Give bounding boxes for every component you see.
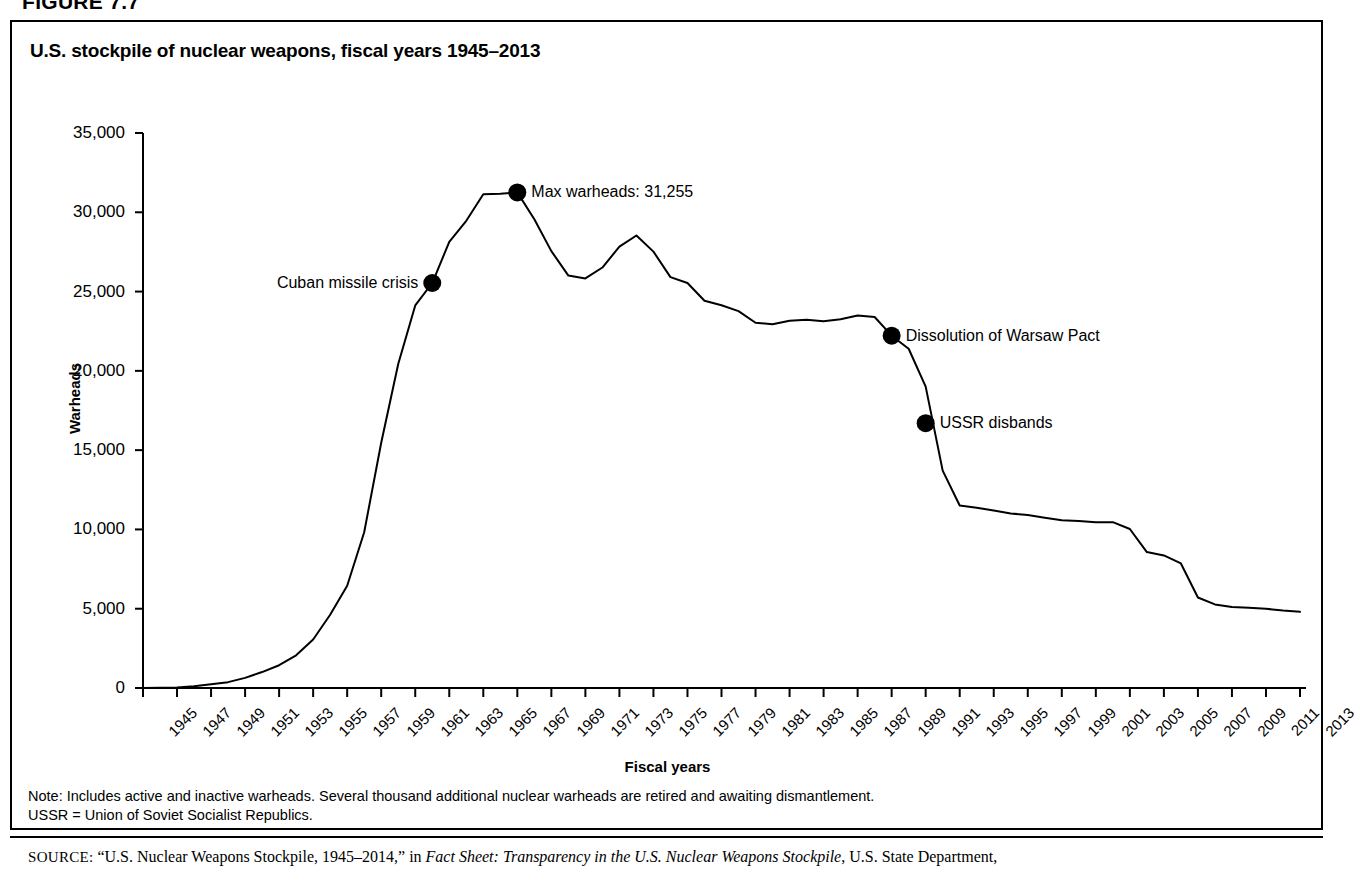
chart-title: U.S. stockpile of nuclear weapons, fisca… [30, 40, 540, 62]
source-part-2: , U.S. State Department, [841, 848, 997, 865]
x-tick-label: 2013 [1322, 704, 1357, 740]
annotation-label: Cuban missile crisis [277, 274, 418, 292]
y-tick-label: 30,000 [25, 202, 125, 222]
annotation-label: Max warheads: 31,255 [531, 183, 693, 201]
y-tick-label: 35,000 [25, 123, 125, 143]
y-tick-label: 10,000 [25, 519, 125, 539]
y-tick-label: 25,000 [25, 282, 125, 302]
source-label: SOURCE: [28, 849, 93, 865]
annotation-label: Dissolution of Warsaw Pact [906, 327, 1100, 345]
source-divider [10, 836, 1323, 838]
y-axis-title: Warheads [66, 319, 83, 479]
figure-number: FIGURE 7.7 [22, 0, 139, 12]
annotation-label: USSR disbands [940, 414, 1053, 432]
y-tick-label: 0 [25, 678, 125, 698]
y-tick-label: 5,000 [25, 599, 125, 619]
source-italic-title: Fact Sheet: Transparency in the U.S. Nuc… [426, 848, 842, 865]
x-axis-title: Fiscal years [0, 758, 1335, 775]
note-line-1: Note: Includes active and inactive warhe… [28, 786, 874, 807]
note-line-2: USSR = Union of Soviet Socialist Republi… [28, 805, 313, 826]
source-part-1: “U.S. Nuclear Weapons Stockpile, 1945–20… [93, 848, 425, 865]
source-line: SOURCE: “U.S. Nuclear Weapons Stockpile,… [28, 848, 1328, 866]
